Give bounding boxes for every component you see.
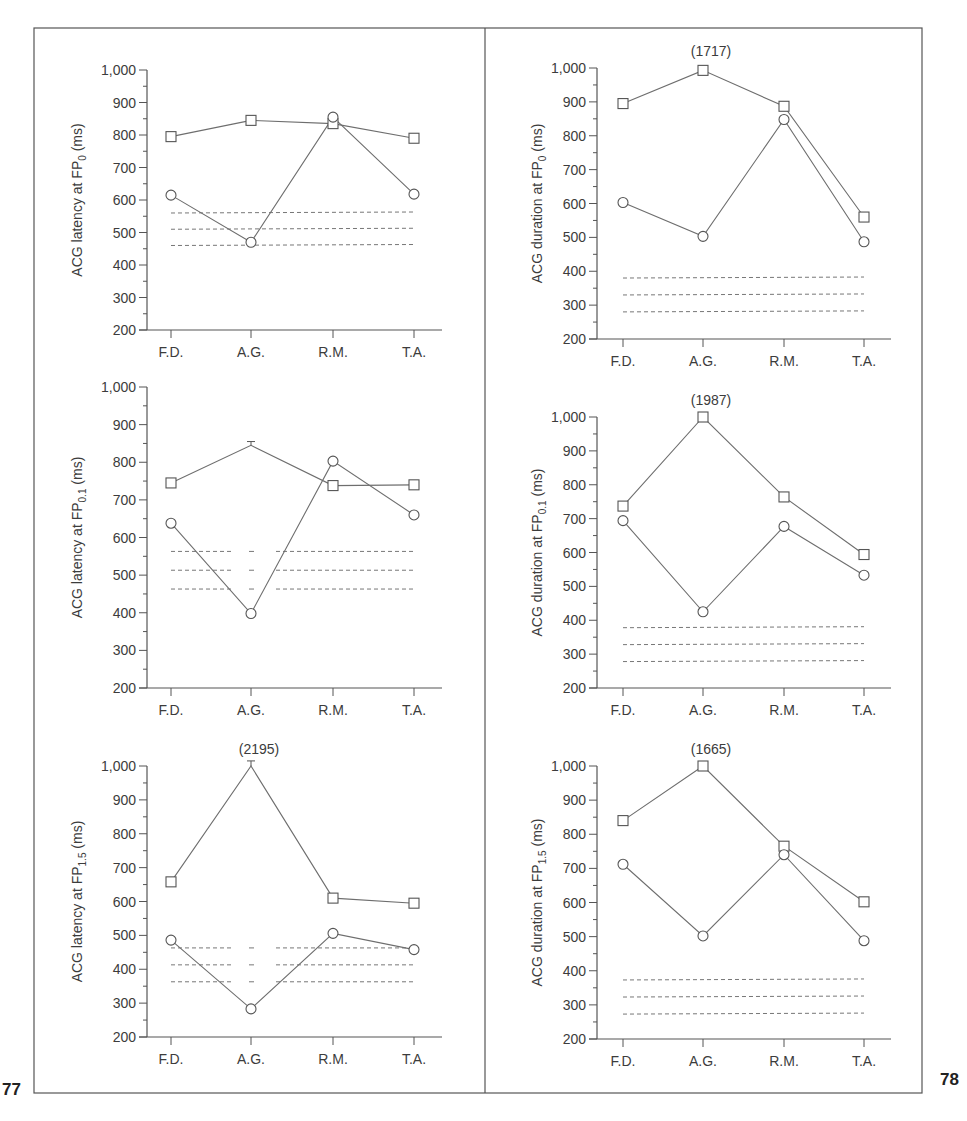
y-axis-label-unit: (ms) <box>529 124 545 156</box>
y-tick-label: 600 <box>563 895 587 911</box>
data-point-circle <box>328 928 338 938</box>
y-axis-label-unit: (ms) <box>69 457 85 489</box>
data-point-square <box>779 101 789 111</box>
series-line-circles <box>623 119 864 241</box>
y-tick-label: 300 <box>563 646 587 662</box>
y-tick-label: 300 <box>563 997 587 1013</box>
data-point-circle <box>779 850 789 860</box>
y-tick-label: 400 <box>113 605 137 621</box>
data-point-square <box>328 481 338 491</box>
y-tick-label: 600 <box>563 196 587 212</box>
reference-line <box>623 294 864 295</box>
y-tick-label: 1,000 <box>101 758 136 774</box>
y-tick-label: 500 <box>563 929 587 945</box>
y-axis-label-unit: (ms) <box>529 469 545 501</box>
y-tick-label: 200 <box>113 680 137 696</box>
y-tick-label: 200 <box>563 331 587 347</box>
x-tick-label: A.G. <box>237 702 265 718</box>
x-tick-label: F.D. <box>611 353 636 369</box>
reference-line <box>171 228 414 229</box>
x-tick-label: R.M. <box>769 1053 799 1069</box>
y-tick-label: 300 <box>563 297 587 313</box>
x-tick-label: F.D. <box>159 1051 184 1067</box>
x-tick-label: F.D. <box>611 702 636 718</box>
data-point-square <box>698 412 708 422</box>
y-tick-label: 500 <box>113 927 137 943</box>
data-point-square <box>166 478 176 488</box>
data-point-circle <box>618 516 628 526</box>
reference-line <box>623 1013 864 1014</box>
series-line-squares <box>623 417 864 555</box>
y-tick-label: 200 <box>563 680 587 696</box>
data-point-square <box>859 897 869 907</box>
y-axis-label-unit: (ms) <box>69 123 85 155</box>
data-point-circle <box>409 189 419 199</box>
y-tick-label: 700 <box>563 162 587 178</box>
data-point-circle <box>859 237 869 247</box>
y-tick-label: 200 <box>113 322 137 338</box>
y-tick-label: 400 <box>563 263 587 279</box>
data-point-square <box>859 550 869 560</box>
reference-line <box>171 212 414 213</box>
y-axis-label-main: ACG duration at FP <box>529 514 545 636</box>
y-tick-label: 500 <box>563 578 587 594</box>
y-axis-label-main: ACG latency at FP <box>69 866 85 982</box>
y-tick-label: 800 <box>563 477 587 493</box>
y-axis-label: ACG duration at FP0 (ms) <box>529 124 548 284</box>
x-tick-label: T.A. <box>852 1053 876 1069</box>
y-tick-label: 600 <box>563 545 587 561</box>
data-point-circle <box>618 859 628 869</box>
y-axis-label: ACG latency at FP1.5 (ms) <box>69 821 88 983</box>
x-tick-label: A.G. <box>237 1051 265 1067</box>
chart-latency-fp0: 2003004005006007008009001,000F.D.A.G.R.M… <box>69 62 442 360</box>
y-tick-label: 700 <box>113 860 137 876</box>
x-tick-label: A.G. <box>689 1053 717 1069</box>
series-line-circles <box>623 855 864 941</box>
y-tick-label: 900 <box>563 94 587 110</box>
y-tick-label: 600 <box>113 894 137 910</box>
reference-line <box>171 245 414 246</box>
data-point-square <box>779 492 789 502</box>
y-tick-label: 400 <box>563 612 587 628</box>
series-line-circles <box>171 461 414 613</box>
reference-line <box>623 627 864 628</box>
y-tick-label: 900 <box>113 95 137 111</box>
charts-group: 2003004005006007008009001,000F.D.A.G.R.M… <box>69 43 891 1069</box>
y-tick-label: 800 <box>113 454 137 470</box>
x-tick-label: T.A. <box>852 702 876 718</box>
y-tick-label: 800 <box>563 826 587 842</box>
series-line-squares <box>171 445 414 485</box>
y-axis-label-unit: (ms) <box>69 821 85 853</box>
data-point-circle <box>698 231 708 241</box>
y-tick-label: 800 <box>113 127 137 143</box>
data-point-circle <box>779 521 789 531</box>
x-tick-label: F.D. <box>159 344 184 360</box>
y-axis-label: ACG latency at FP0 (ms) <box>69 123 88 276</box>
y-axis-label: ACG duration at FP1.5 (ms) <box>529 819 548 987</box>
data-point-square <box>698 761 708 771</box>
chart-latency-fp15: 2003004005006007008009001,000F.D.A.G.R.M… <box>69 741 442 1067</box>
x-tick-label: R.M. <box>769 702 799 718</box>
reference-line <box>623 644 864 645</box>
y-tick-label: 300 <box>113 995 137 1011</box>
y-tick-label: 600 <box>113 530 137 546</box>
off-scale-annotation: (1665) <box>691 741 731 757</box>
y-axis-label: ACG duration at FP0.1 (ms) <box>529 469 548 637</box>
y-tick-label: 300 <box>113 642 137 658</box>
y-tick-label: 400 <box>113 257 137 273</box>
y-tick-label: 1,000 <box>551 60 586 76</box>
data-point-square <box>246 115 256 125</box>
data-point-circle <box>328 112 338 122</box>
y-axis-label-main: ACG latency at FP <box>69 502 85 618</box>
x-tick-label: A.G. <box>689 353 717 369</box>
y-tick-label: 400 <box>113 961 137 977</box>
y-tick-label: 1,000 <box>551 409 586 425</box>
series-line-squares <box>623 766 864 902</box>
data-point-square <box>409 898 419 908</box>
y-tick-label: 900 <box>113 417 137 433</box>
chart-duration-fp01: 2003004005006007008009001,000F.D.A.G.R.M… <box>529 392 891 718</box>
data-point-square <box>328 893 338 903</box>
x-tick-label: A.G. <box>689 702 717 718</box>
data-point-square <box>618 501 628 511</box>
series-line-circles <box>171 117 414 242</box>
